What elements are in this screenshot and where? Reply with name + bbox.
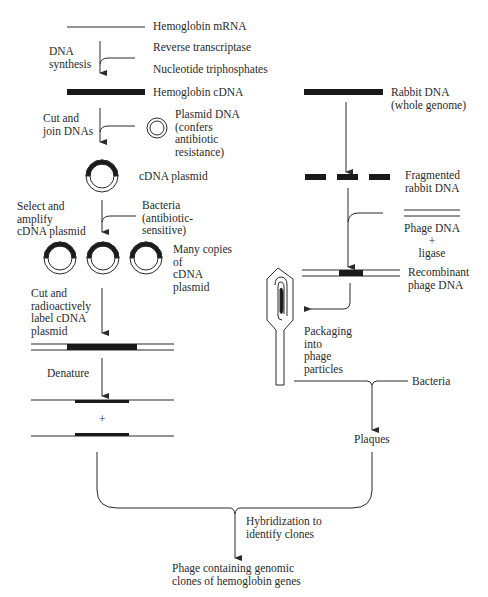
plasmid-join-line xyxy=(100,126,135,132)
single-strand-probe-2 xyxy=(31,433,174,436)
nucleotide-triphosphates-label: Nucleotide triphosphates xyxy=(153,63,268,76)
cut-join-label: Cut and join DNAs xyxy=(43,112,93,137)
dna-synthesis-label: DNA synthesis xyxy=(49,45,91,70)
many-copies-label: Many copies of cDNA plasmid xyxy=(173,243,232,293)
plasmid-dna-label: Plasmid DNA (confers antibiotic resistan… xyxy=(175,108,240,158)
phage-particle-icon xyxy=(267,268,293,385)
mrna-label: Hemoglobin mRNA xyxy=(153,20,247,33)
plasmid-copy-3 xyxy=(130,242,162,274)
bacteria-label: Bacteria xyxy=(412,375,450,388)
packaging-label: Packaging into phage particles xyxy=(304,325,352,375)
cdna-plasmid-icon xyxy=(86,160,118,192)
denature-label: Denature xyxy=(47,367,89,380)
bacteria-join-line xyxy=(102,216,136,222)
cut-radiolabel-label: Cut and radioactively label cDNA plasmid xyxy=(31,287,91,337)
fragmented-rabbit-dna xyxy=(305,174,390,180)
select-amplify-label: Select and amplify cDNA plasmid xyxy=(17,200,86,238)
result-label: Phage containing genomic clones of hemog… xyxy=(172,562,301,587)
phage-bacteria-bracket xyxy=(294,381,408,385)
phage-dna-ligase-label: Phage DNA + ligase xyxy=(400,222,464,260)
plus-sign: + xyxy=(99,413,106,426)
recombinant-phage-label: Recombinant phage DNA xyxy=(408,266,469,291)
rabbit-dna-bar xyxy=(304,89,383,95)
recombinant-phage-dna xyxy=(302,270,400,276)
hybridization-bracket xyxy=(97,452,372,514)
fragmented-dna-label: Fragmented rabbit DNA xyxy=(405,169,460,194)
labeled-ds-cdna xyxy=(31,344,174,350)
hemoglobin-cdna-bar xyxy=(67,89,145,95)
plasmid-copy-2 xyxy=(87,242,119,274)
bacteria-antibiotic-label: Bacteria (antibiotic- sensitive) xyxy=(142,199,193,237)
hemoglobin-cdna-label: Hemoglobin cDNA xyxy=(153,86,243,99)
reverse-transcriptase-label: Reverse transcriptase xyxy=(153,41,251,54)
phage-join-line xyxy=(348,213,383,222)
hybridization-label: Hybridization to identify clones xyxy=(246,515,322,540)
single-strand-probe-1 xyxy=(31,400,174,403)
rabbit-dna-label: Rabbit DNA (whole genome) xyxy=(391,86,466,111)
plasmid-copy-1 xyxy=(44,242,76,274)
reagent-join-line xyxy=(100,58,135,64)
cdna-plasmid-label: cDNA plasmid xyxy=(139,170,208,183)
packaging-arrow xyxy=(311,283,350,309)
plaques-label: Plaques xyxy=(354,433,390,446)
